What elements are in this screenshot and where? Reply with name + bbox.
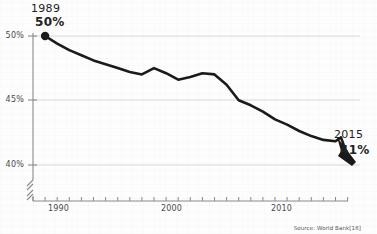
annotation-end-value: 41%	[340, 143, 370, 157]
y-tick-label-50: 50%	[0, 31, 24, 40]
source-note: Source: World Bank[16]	[294, 225, 361, 231]
start-point-marker	[41, 32, 49, 40]
y-tick-label-45: 45%	[0, 95, 24, 104]
x-minor-ticks	[33, 197, 348, 201]
y-axis	[27, 33, 37, 201]
x-tick-label-1990: 1990	[48, 204, 69, 213]
x-tick-label-2010: 2010	[271, 204, 292, 213]
annotation-start-value: 50%	[35, 15, 65, 29]
annotation-end-year: 2015	[334, 128, 363, 141]
x-axis	[33, 197, 348, 201]
chart-container: 50% 45% 40% 1990 2000 2010 1989 50% 2015…	[0, 0, 377, 234]
y-tick-label-40: 40%	[0, 160, 24, 169]
line-chart-plot	[0, 0, 377, 234]
annotation-start-year: 1989	[31, 2, 60, 15]
axis-break-icon	[27, 180, 33, 200]
data-series-share	[41, 32, 356, 166]
data-line	[45, 36, 349, 160]
x-tick-label-2000: 2000	[161, 204, 182, 213]
